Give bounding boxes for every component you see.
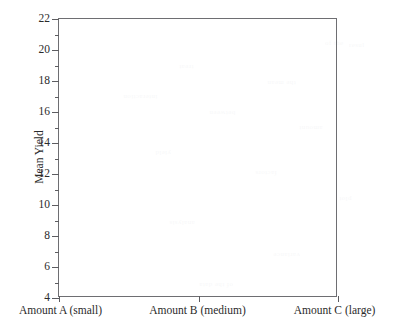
y-tick-label: 16 xyxy=(39,106,51,118)
x-axis-category-label: Amount A (small) xyxy=(19,305,102,317)
y-tick-label: 12 xyxy=(39,168,51,180)
x-axis-category-label: Amount B (medium) xyxy=(149,305,245,317)
y-tick-major xyxy=(52,50,59,51)
y-tick-major xyxy=(52,205,59,206)
scan-artifact: plot xyxy=(339,195,352,203)
y-tick-major xyxy=(52,112,59,113)
y-tick-label: 18 xyxy=(39,75,51,87)
y-tick-major xyxy=(52,267,59,268)
y-tick-label: 6 xyxy=(44,261,50,273)
y-tick-major xyxy=(52,236,59,237)
y-tick-major xyxy=(52,19,59,20)
chart-figure: Mean Yield of theresultreatthe meaninter… xyxy=(0,0,395,335)
y-tick-label: 22 xyxy=(39,13,51,25)
y-tick-major xyxy=(52,174,59,175)
y-tick-major xyxy=(52,298,59,299)
scan-artifact: resul xyxy=(349,41,365,49)
y-tick-major xyxy=(52,143,59,144)
plot-area: of theresultreatthe meaninteractionbetwe… xyxy=(58,18,337,297)
y-tick-label: 14 xyxy=(39,137,51,149)
x-tick xyxy=(338,296,339,302)
y-tick-major xyxy=(52,81,59,82)
x-tick xyxy=(199,296,200,302)
x-tick xyxy=(59,296,60,302)
y-tick-label: 8 xyxy=(44,230,50,242)
y-tick-label: 20 xyxy=(39,44,51,56)
x-axis-category-label: Amount C (large) xyxy=(294,305,376,317)
y-tick-label: 4 xyxy=(44,292,50,304)
data-series-layer xyxy=(59,19,336,296)
y-tick-label: 10 xyxy=(39,199,51,211)
